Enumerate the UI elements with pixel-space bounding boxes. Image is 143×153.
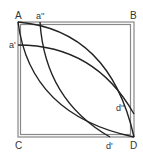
outer-square xyxy=(18,22,134,137)
label-C: C xyxy=(15,140,22,151)
arc-a-d-lower xyxy=(18,22,134,137)
label-d1: d' xyxy=(106,141,113,151)
label-a1: a' xyxy=(9,40,16,50)
arc-a2-d1 xyxy=(40,22,110,137)
label-D: D xyxy=(130,140,137,151)
arc-diagram: A a'' B a' d'' C d' D xyxy=(0,0,143,153)
label-a2: a'' xyxy=(36,11,45,21)
arc-a-d-upper xyxy=(18,22,134,137)
label-d2: d'' xyxy=(116,103,125,113)
label-A: A xyxy=(15,10,22,21)
label-B: B xyxy=(130,10,137,21)
